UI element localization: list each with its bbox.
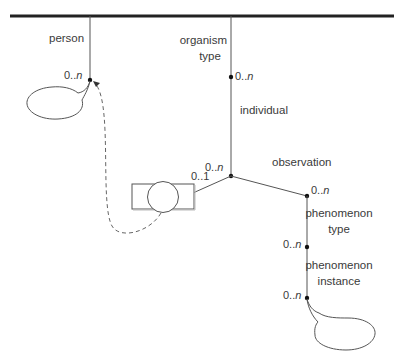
person-label: person <box>49 32 84 44</box>
phenomenon-instance-bubble[interactable] <box>307 299 375 350</box>
arrowhead-icon <box>93 81 100 87</box>
phenomenon-type-label-line2: type <box>328 223 350 235</box>
phenomenon-type-label: phenomenon <box>305 207 372 219</box>
person-bubble[interactable] <box>27 81 90 119</box>
phenomenon-type-cardinality: 0..n <box>283 238 301 250</box>
diagram-canvas: person 0..n organism type 0..n individua… <box>0 0 398 355</box>
observation-cardinality: 0..n <box>311 184 329 196</box>
phenomenon-instance-cardinality: 0..n <box>283 289 301 301</box>
specimen-cardinality: 0..1 <box>191 170 209 182</box>
phenomenon-type-node-dot <box>305 245 309 249</box>
individual-label: individual <box>240 104 288 116</box>
observation-edge <box>231 176 307 196</box>
organism-type-cardinality: 0..n <box>235 70 253 82</box>
phenomenon-instance-label: phenomenon <box>305 259 372 271</box>
phenomenon-instance-label-line2: instance <box>318 275 361 287</box>
organism-type-node-dot <box>229 75 233 79</box>
organism-type-label: organism <box>180 34 227 46</box>
specimen-circle[interactable] <box>148 182 179 213</box>
organism-type-label-line2: type <box>199 50 221 62</box>
specimen-to-person-dashed-link <box>97 86 161 233</box>
observation-label: observation <box>272 156 331 168</box>
person-cardinality: 0..n <box>64 69 82 81</box>
